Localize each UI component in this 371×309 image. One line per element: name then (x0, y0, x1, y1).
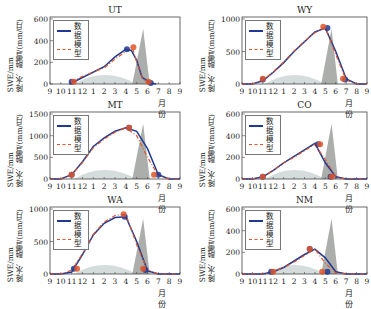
data-marker (324, 269, 330, 275)
x-tick-label: 11 (258, 277, 268, 286)
x-tick-label: 4 (313, 277, 318, 286)
x-tick-label: 9 (365, 277, 370, 286)
legend: 数据 模型 (245, 210, 281, 250)
x-tick-label: 1 (281, 277, 286, 286)
model-marker (319, 269, 325, 275)
x-axis-label: 月份 (345, 287, 353, 309)
legend-item-model: 模型 (249, 230, 277, 248)
melt-area (321, 219, 338, 274)
data-line-swatch (249, 220, 263, 222)
x-tick-label: 7 (344, 277, 349, 286)
x-tick-label: 10 (248, 277, 258, 286)
x-tick-label: 12 (268, 277, 278, 286)
model-marker (307, 246, 313, 252)
x-tick-label: 6 (333, 277, 338, 286)
x-tick-label: 9 (240, 277, 245, 286)
y-tick-label: 600 (226, 205, 241, 214)
x-tick-label: 3 (302, 277, 307, 286)
legend-label-model: 模型 (266, 230, 277, 248)
legend-item-data: 数据 (249, 212, 277, 230)
x-tick-label: 8 (354, 277, 359, 286)
y-tick-label: 400 (226, 227, 241, 236)
x-tick-label: 2 (292, 277, 297, 286)
model-marker (270, 269, 276, 275)
y-tick-label: 200 (226, 248, 241, 257)
x-tick-label: 5 (323, 277, 328, 286)
legend-label-data: 数据 (266, 212, 277, 230)
model-line-swatch (249, 239, 263, 240)
